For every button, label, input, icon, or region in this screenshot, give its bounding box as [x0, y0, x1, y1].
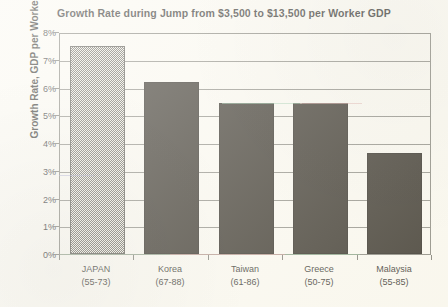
chart-page: Growth Rate during Jump from $3,500 to $…	[0, 0, 448, 307]
y-axis-ticks: 8%7%6%5%4%3%2%1%0%	[26, 33, 56, 255]
y-tick-label: 1%	[30, 222, 56, 232]
x-category-label: Greece(50-75)	[282, 263, 356, 289]
bar-japan	[70, 46, 125, 254]
x-axis: JAPAN(55-73)Korea(67-88)Taiwan(61-86)Gre…	[59, 255, 431, 307]
x-category-years: (67-88)	[133, 276, 207, 289]
x-category-years: (50-75)	[282, 276, 356, 289]
x-category-name: Greece	[282, 263, 356, 276]
bar-greece	[293, 103, 348, 254]
x-tick-mark	[282, 255, 283, 260]
y-tick-label: 7%	[30, 56, 56, 66]
x-category-years: (55-73)	[59, 276, 133, 289]
y-tick-label: 2%	[30, 195, 56, 205]
x-category-label: Taiwan(61-86)	[208, 263, 282, 289]
x-tick-mark	[133, 255, 134, 260]
y-tick-label: 8%	[30, 28, 56, 38]
y-tick-label: 3%	[30, 167, 56, 177]
x-tick-mark	[59, 255, 60, 260]
y-tick-label: 5%	[30, 111, 56, 121]
x-category-label: Malaysia(55-85)	[357, 263, 431, 289]
y-tick-label: 0%	[30, 250, 56, 260]
x-tick-mark	[431, 255, 432, 260]
x-category-years: (61-86)	[208, 276, 282, 289]
x-tick-mark	[208, 255, 209, 260]
x-tick-mark	[357, 255, 358, 260]
y-tick-label: 6%	[30, 84, 56, 94]
x-category-name: JAPAN	[59, 263, 133, 276]
x-category-name: Korea	[133, 263, 207, 276]
y-tick-label: 4%	[30, 139, 56, 149]
bar-taiwan	[219, 103, 274, 254]
x-category-name: Taiwan	[208, 263, 282, 276]
chart-title: Growth Rate during Jump from $3,500 to $…	[0, 7, 448, 19]
x-category-years: (55-85)	[357, 276, 431, 289]
x-category-label: Korea(67-88)	[133, 263, 207, 289]
x-category-name: Malaysia	[357, 263, 431, 276]
plot-area	[59, 33, 431, 255]
bar-korea	[144, 82, 199, 254]
x-category-label: JAPAN(55-73)	[59, 263, 133, 289]
bar-malaysia	[367, 153, 422, 254]
